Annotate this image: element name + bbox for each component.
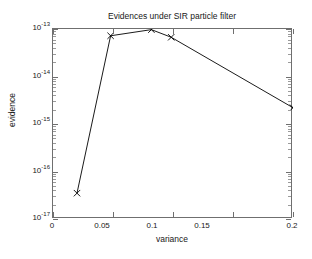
y-axis-minor-tick: [288, 110, 291, 111]
y-axis-minor-tick: [53, 138, 56, 139]
y-axis-minor-tick: [53, 54, 56, 55]
x-axis-tick: [233, 212, 234, 217]
y-axis-minor-tick: [53, 196, 56, 197]
y-axis-minor-tick: [288, 54, 291, 55]
y-axis-minor-tick: [288, 179, 291, 180]
y-axis-minor-tick: [53, 81, 56, 82]
y-axis-minor-tick: [288, 186, 291, 187]
data-series-plot: [53, 29, 293, 219]
y-axis-minor-tick: [53, 131, 56, 132]
y-axis-minor-tick: [53, 143, 56, 144]
y-axis-minor-tick: [53, 129, 56, 130]
y-axis-minor-tick: [288, 79, 291, 80]
y-axis-minor-tick: [53, 36, 56, 37]
y-axis-minor-tick: [53, 79, 56, 80]
y-axis-minor-tick: [53, 149, 56, 150]
y-axis-minor-tick: [53, 179, 56, 180]
x-tick-label-2: 0.1: [142, 221, 162, 230]
y-axis-tick: [286, 219, 291, 220]
y-axis-minor-tick: [288, 43, 291, 44]
y-tick-label-1: 10-14: [32, 71, 50, 80]
y-axis-minor-tick: [288, 81, 291, 82]
y-axis-minor-tick: [53, 40, 56, 41]
y-tick-label-0: 10-13: [32, 23, 50, 32]
y-axis-tick: [53, 172, 58, 173]
y-axis-tick: [53, 77, 58, 78]
data-point-marker: [168, 34, 174, 40]
y-axis-minor-tick: [53, 91, 56, 92]
chart-screenshot: Evidences under SIR particle filter 10-1…: [0, 0, 312, 259]
x-axis-tick: [113, 212, 114, 217]
x-axis-tick: [293, 212, 294, 217]
plot-area: [52, 28, 292, 218]
y-axis-minor-tick: [53, 126, 56, 127]
y-axis-minor-tick: [288, 36, 291, 37]
y-axis-minor-tick: [53, 186, 56, 187]
y-axis-minor-tick: [53, 135, 56, 136]
y-axis-minor-tick: [288, 95, 291, 96]
x-axis-tick: [113, 29, 114, 34]
y-axis-minor-tick: [53, 95, 56, 96]
y-axis-minor-tick: [288, 31, 291, 32]
y-axis-minor-tick: [288, 196, 291, 197]
y-axis-minor-tick: [288, 84, 291, 85]
y-axis-minor-tick: [53, 43, 56, 44]
x-axis-tick: [233, 29, 234, 34]
y-axis-minor-tick: [288, 138, 291, 139]
y-axis-minor-tick: [288, 131, 291, 132]
y-axis-minor-tick: [53, 48, 56, 49]
y-axis-minor-tick: [53, 62, 56, 63]
y-tick-label-3: 10-16: [32, 166, 50, 175]
y-axis-minor-tick: [288, 62, 291, 63]
y-axis-tick: [286, 29, 291, 30]
y-axis-minor-tick: [288, 205, 291, 206]
x-tick-label-0: 0: [42, 221, 62, 230]
y-axis-minor-tick: [288, 126, 291, 127]
y-axis-minor-tick: [288, 149, 291, 150]
x-axis-title: variance: [52, 234, 292, 244]
y-axis-minor-tick: [288, 174, 291, 175]
y-axis-minor-tick: [288, 91, 291, 92]
data-point-marker: [74, 190, 80, 196]
y-axis-minor-tick: [288, 135, 291, 136]
x-axis-tick: [173, 212, 174, 217]
y-tick-label-2: 10-15: [32, 118, 50, 127]
y-axis-tick: [53, 219, 58, 220]
y-axis-minor-tick: [53, 205, 56, 206]
y-axis-minor-tick: [288, 176, 291, 177]
y-axis-tick: [286, 77, 291, 78]
x-axis-tick: [293, 29, 294, 34]
y-axis-tick: [286, 172, 291, 173]
y-axis-minor-tick: [53, 87, 56, 88]
x-axis-tick: [53, 212, 54, 217]
y-axis-minor-tick: [288, 34, 291, 35]
y-axis-minor-tick: [53, 190, 56, 191]
x-axis-tick: [173, 29, 174, 34]
y-axis-minor-tick: [53, 176, 56, 177]
y-axis-tick: [286, 124, 291, 125]
y-axis-minor-tick: [288, 190, 291, 191]
y-axis-minor-tick: [288, 48, 291, 49]
y-axis-minor-tick: [288, 182, 291, 183]
y-axis-minor-tick: [53, 182, 56, 183]
y-axis-minor-tick: [53, 174, 56, 175]
x-axis-tick: [53, 29, 54, 34]
y-axis-tick: [53, 124, 58, 125]
y-axis-minor-tick: [53, 84, 56, 85]
x-tick-label-3: 0.15: [192, 221, 212, 230]
y-axis-minor-tick: [288, 87, 291, 88]
x-tick-label-4: 0.2: [282, 221, 302, 230]
y-axis-minor-tick: [288, 101, 291, 102]
y-axis-minor-tick: [53, 110, 56, 111]
y-axis-title: evidence: [7, 80, 17, 140]
x-tick-label-1: 0.05: [92, 221, 112, 230]
y-axis-minor-tick: [53, 101, 56, 102]
data-line: [77, 30, 293, 194]
y-axis-minor-tick: [53, 157, 56, 158]
y-axis-minor-tick: [288, 40, 291, 41]
chart-title: Evidences under SIR particle filter: [52, 11, 292, 22]
y-axis-minor-tick: [288, 143, 291, 144]
y-axis-minor-tick: [288, 129, 291, 130]
y-axis-minor-tick: [288, 157, 291, 158]
